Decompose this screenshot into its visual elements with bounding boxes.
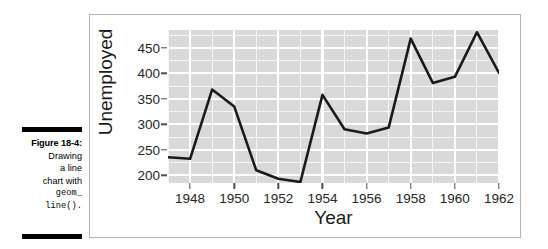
x-axis-title: Year xyxy=(168,207,499,229)
y-tick-label-250: 250 xyxy=(137,142,160,157)
x-axis: 19481950195219541956195819601962 xyxy=(168,183,499,209)
caption-rule-bottom xyxy=(22,234,82,239)
y-tick-mark-400 xyxy=(161,73,167,74)
figure-caption-block: Figure 18-4: Drawing a line chart with g… xyxy=(0,120,84,240)
x-tick-label-1954: 1954 xyxy=(307,191,337,206)
x-tick-label-1962: 1962 xyxy=(484,191,514,206)
line-chart: Unemployed 200250300350400450 1948195019… xyxy=(90,15,520,237)
y-tick-label-400: 400 xyxy=(137,66,160,81)
y-tick-mark-350 xyxy=(161,98,167,99)
x-tick-label-1958: 1958 xyxy=(396,191,426,206)
caption-line-2: a line xyxy=(0,162,82,175)
caption-line-1: Drawing xyxy=(0,150,82,163)
x-tick-label-1950: 1950 xyxy=(219,191,249,206)
x-tick-label-1956: 1956 xyxy=(352,191,382,206)
x-tick-label-1952: 1952 xyxy=(263,191,293,206)
caption-code-line-2: line(). xyxy=(0,200,82,213)
y-tick-label-300: 300 xyxy=(137,117,160,132)
x-tick-mark-1948 xyxy=(189,183,190,189)
caption-rule-top xyxy=(22,127,82,132)
x-tick-label-1948: 1948 xyxy=(175,191,205,206)
y-tick-label-200: 200 xyxy=(137,168,160,183)
figure-frame: Unemployed 200250300350400450 1948195019… xyxy=(89,14,521,238)
y-tick-label-350: 350 xyxy=(137,91,160,106)
x-tick-mark-1960 xyxy=(454,183,455,189)
y-tick-label-450: 450 xyxy=(137,40,160,55)
figure-caption-text: Figure 18-4: Drawing a line chart with g… xyxy=(0,137,82,213)
y-tick-mark-200 xyxy=(161,175,167,176)
caption-code-line-1: geom_ xyxy=(0,187,82,200)
y-tick-mark-250 xyxy=(161,149,167,150)
y-tick-mark-450 xyxy=(161,47,167,48)
unemployed-line-series xyxy=(168,30,499,183)
y-tick-mark-300 xyxy=(161,124,167,125)
plot-panel xyxy=(168,30,499,183)
caption-line-3: chart with xyxy=(0,175,82,188)
x-tick-mark-1952 xyxy=(278,183,279,189)
x-tick-mark-1954 xyxy=(322,183,323,189)
x-tick-mark-1958 xyxy=(410,183,411,189)
x-tick-label-1960: 1960 xyxy=(440,191,470,206)
x-tick-mark-1962 xyxy=(498,183,499,189)
x-tick-mark-1950 xyxy=(233,183,234,189)
x-tick-mark-1956 xyxy=(366,183,367,189)
y-axis: 200250300350400450 xyxy=(90,15,168,175)
caption-figure-label: Figure 18-4: xyxy=(0,137,82,150)
